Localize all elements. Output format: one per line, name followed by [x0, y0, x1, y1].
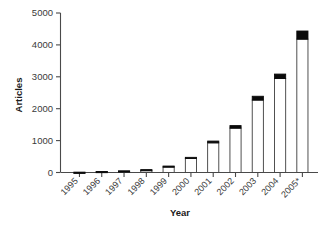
x-tick-label: 1997	[103, 176, 124, 197]
bar-segment-upper	[141, 170, 152, 171]
bar-segment-lower	[252, 100, 263, 172]
bar-segment-upper	[297, 31, 308, 39]
x-axis-tick-labels: 1995199619971998199920002001200220032004…	[59, 175, 304, 199]
x-axis-title: Year	[170, 207, 190, 218]
x-tick-label: 2001	[192, 176, 213, 197]
x-tick-label: 2005*	[279, 175, 303, 199]
y-tick-label: 3000	[32, 71, 53, 82]
bar-segment-upper	[275, 74, 286, 78]
bar-segment-lower	[275, 79, 286, 173]
bar-segment-upper	[208, 141, 219, 143]
bar-segment-upper	[96, 171, 107, 172]
bar-segment-upper	[185, 157, 196, 158]
bar-segment-lower	[208, 143, 219, 173]
x-tick-label: 1999	[148, 176, 169, 197]
y-tick-label: 1000	[32, 135, 53, 146]
x-tick-label: 2004	[259, 176, 280, 197]
y-axis-tick-labels: 010002000300040005000	[32, 7, 53, 178]
bar-segment-upper	[230, 126, 241, 129]
bar-segment-lower	[297, 39, 308, 172]
bars-group	[74, 31, 308, 173]
x-tick-label: 2000	[170, 176, 191, 197]
x-tick-label: 2003	[237, 176, 258, 197]
y-tick-label: 5000	[32, 7, 53, 18]
bar-segment-lower	[230, 128, 241, 172]
bar-segment-upper	[252, 96, 263, 100]
x-tick-label: 2002	[215, 176, 236, 197]
bar-segment-upper	[163, 166, 174, 167]
x-axis-tick-marks	[79, 173, 302, 178]
x-tick-label: 1998	[126, 176, 147, 197]
x-tick-label: 1995	[59, 176, 80, 197]
chart-container: 010002000300040005000 199519961997199819…	[0, 0, 326, 235]
bar-segment-upper	[118, 171, 129, 172]
x-tick-label: 1996	[81, 176, 102, 197]
y-axis-title: Articles	[13, 78, 24, 113]
y-tick-label: 4000	[32, 39, 53, 50]
y-tick-label: 2000	[32, 103, 53, 114]
bar-segment-lower	[185, 158, 196, 172]
articles-per-year-bar-chart: 010002000300040005000 199519961997199819…	[0, 0, 326, 235]
y-axis-tick-marks	[56, 13, 61, 173]
y-tick-label: 0	[48, 167, 53, 178]
bar-segment-upper	[74, 172, 85, 173]
